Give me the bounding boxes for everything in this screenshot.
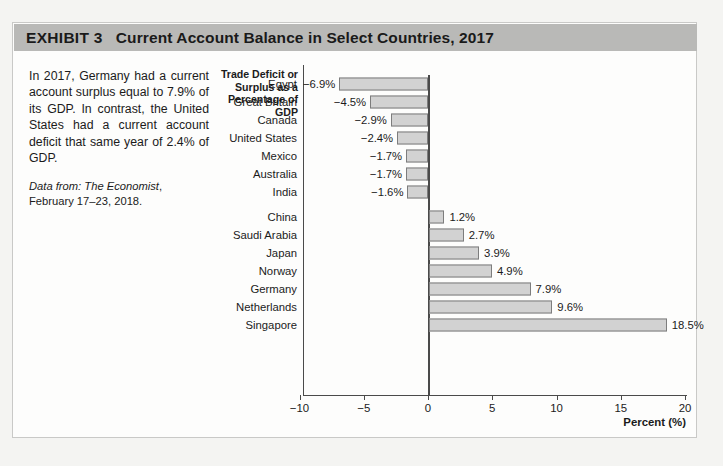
bar-value-label: −6.9% — [303, 78, 335, 90]
x-axis-tick — [364, 395, 365, 400]
bar — [370, 96, 428, 109]
caption-source-publication: The Economist — [84, 180, 159, 192]
bar — [397, 132, 428, 145]
bar — [429, 319, 667, 332]
bar-value-label: 1.2% — [449, 211, 475, 223]
caption-source: Data from: The Economist, February 17–23… — [29, 179, 209, 208]
bar-row: Mexico−1.7% — [209, 147, 687, 165]
bar-category-label: Saudi Arabia — [209, 229, 297, 241]
bar-value-label: 7.9% — [536, 283, 562, 295]
bar-row: United States−2.4% — [209, 129, 687, 147]
x-axis-ticks: −10−505101520 — [209, 395, 687, 396]
x-axis-tick — [428, 395, 429, 400]
bar — [429, 229, 464, 242]
bar-value-label: −4.5% — [334, 96, 366, 108]
bar-category-label: Japan — [209, 247, 297, 259]
caption-body: In 2017, Germany had a current account s… — [29, 68, 209, 166]
x-axis-tick-label: −5 — [357, 402, 370, 414]
bar-category-label: Germany — [209, 283, 297, 295]
exhibit-title-text: Current Account Balance in Select Countr… — [116, 29, 494, 46]
bar-row: Egypt−6.9% — [209, 75, 687, 93]
bar-row: Netherlands9.6% — [209, 298, 687, 316]
bar-category-label: Great Britain — [209, 96, 297, 108]
bar — [339, 78, 428, 91]
x-axis-tick — [685, 395, 686, 400]
bar-value-label: −2.9% — [354, 114, 386, 126]
exhibit-label: EXHIBIT — [26, 29, 89, 46]
exhibit-title-band: EXHIBIT 3 Current Account Balance in Sel… — [14, 24, 697, 51]
x-axis-tick-label: 5 — [489, 402, 495, 414]
caption-source-prefix: Data from: — [29, 180, 84, 192]
bar-category-label: Netherlands — [209, 301, 297, 313]
bar — [429, 283, 531, 296]
bar-row: India−1.6% — [209, 183, 687, 201]
bar-category-label: Egypt — [209, 78, 297, 90]
exhibit-frame: EXHIBIT 3 Current Account Balance in Sel… — [12, 22, 697, 438]
bar — [429, 265, 492, 278]
exhibit-title: EXHIBIT 3 Current Account Balance in Sel… — [14, 29, 494, 47]
x-axis-tick — [492, 395, 493, 400]
bar-chart: Trade Deficit or Surplus as a Percentage… — [209, 65, 687, 435]
caption-panel: In 2017, Germany had a current account s… — [29, 68, 209, 209]
bar-category-label: Australia — [209, 168, 297, 180]
exhibit-number: 3 — [94, 29, 103, 46]
bar-row: Canada−2.9% — [209, 111, 687, 129]
bar — [429, 211, 444, 224]
bar-row: Great Britain−4.5% — [209, 93, 687, 111]
bar — [406, 168, 428, 181]
bar-value-label: 9.6% — [557, 301, 583, 313]
bar-row: Norway4.9% — [209, 262, 687, 280]
x-axis-tick-label: −10 — [290, 402, 309, 414]
x-axis-tick — [621, 395, 622, 400]
bar-row: Germany7.9% — [209, 280, 687, 298]
bar-row: Singapore18.5% — [209, 316, 687, 334]
x-axis-tick-label: 20 — [679, 402, 692, 414]
bar-category-label: United States — [209, 132, 297, 144]
bar-category-label: Canada — [209, 114, 297, 126]
bar-category-label: Mexico — [209, 150, 297, 162]
bar-value-label: −1.7% — [370, 168, 402, 180]
bar-value-label: −1.6% — [371, 186, 403, 198]
bar-value-label: 4.9% — [497, 265, 523, 277]
x-axis-tick-label: 15 — [614, 402, 627, 414]
bar — [407, 186, 428, 199]
bar-row: Australia−1.7% — [209, 165, 687, 183]
bar — [429, 301, 552, 314]
x-axis-tick-label: 0 — [425, 402, 431, 414]
bar-category-label: Norway — [209, 265, 297, 277]
bar-value-label: 3.9% — [484, 247, 510, 259]
x-axis-tick — [557, 395, 558, 400]
bar-value-label: 18.5% — [672, 319, 704, 331]
x-axis-title: Percent (%) — [623, 416, 686, 428]
bar-row: Japan3.9% — [209, 244, 687, 262]
bar-category-label: China — [209, 211, 297, 223]
x-axis-tick-label: 10 — [550, 402, 563, 414]
bar-value-label: −1.7% — [370, 150, 402, 162]
bar-value-label: 2.7% — [469, 229, 495, 241]
bar — [391, 114, 428, 127]
bar-category-label: Singapore — [209, 319, 297, 331]
bar — [406, 150, 428, 163]
bar-row: Saudi Arabia2.7% — [209, 226, 687, 244]
bar-value-label: −2.4% — [361, 132, 393, 144]
x-axis-tick — [300, 395, 301, 400]
bar-row: China1.2% — [209, 208, 687, 226]
bar — [429, 247, 479, 260]
bar-category-label: India — [209, 186, 297, 198]
